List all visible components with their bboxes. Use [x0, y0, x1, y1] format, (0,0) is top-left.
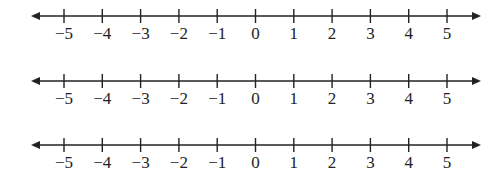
tick-label: 2 [328, 25, 337, 42]
tick-label: 1 [290, 90, 299, 107]
tick-label: −3 [132, 25, 150, 42]
tick-label: 0 [251, 25, 260, 42]
tick-labels: −5−4−3−2−1012345 [0, 130, 502, 181]
tick-labels: −5−4−3−2−1012345 [0, 66, 502, 126]
tick-label: 4 [404, 154, 413, 171]
tick-label: −3 [132, 90, 150, 107]
tick-label: 5 [443, 90, 452, 107]
tick-label: −3 [132, 154, 150, 171]
tick-label: 0 [251, 90, 260, 107]
tick-label: −4 [93, 90, 111, 107]
tick-label: −5 [55, 90, 73, 107]
tick-label: −4 [93, 25, 111, 42]
tick-label: 3 [366, 25, 375, 42]
tick-label: 1 [290, 25, 299, 42]
tick-label: 5 [443, 154, 452, 171]
tick-label: 1 [290, 154, 299, 171]
tick-label: −1 [208, 25, 226, 42]
tick-label: −2 [170, 154, 188, 171]
tick-label: 0 [251, 154, 260, 171]
tick-label: −1 [208, 154, 226, 171]
tick-label: 3 [366, 154, 375, 171]
tick-label: −5 [55, 154, 73, 171]
tick-label: 2 [328, 154, 337, 171]
number-line: −5−4−3−2−1012345 [0, 1, 502, 61]
tick-label: 2 [328, 90, 337, 107]
tick-labels: −5−4−3−2−1012345 [0, 1, 502, 61]
tick-label: −1 [208, 90, 226, 107]
tick-label: 4 [404, 90, 413, 107]
tick-label: 3 [366, 90, 375, 107]
number-line: −5−4−3−2−1012345 [0, 130, 502, 181]
tick-label: −2 [170, 90, 188, 107]
tick-label: −5 [55, 25, 73, 42]
tick-label: −4 [93, 154, 111, 171]
tick-label: 5 [443, 25, 452, 42]
number-line: −5−4−3−2−1012345 [0, 66, 502, 126]
tick-label: −2 [170, 25, 188, 42]
tick-label: 4 [404, 25, 413, 42]
